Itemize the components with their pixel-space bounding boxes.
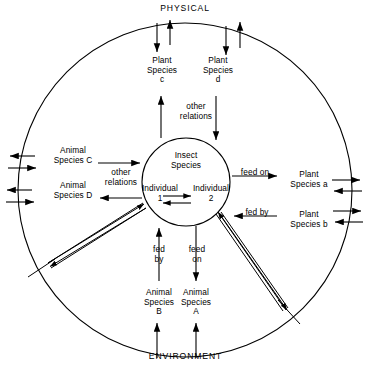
individual-2-label: Individual 2 <box>188 184 234 203</box>
label-top-other-relations: other relations <box>168 102 224 121</box>
environment-title: ENVIRONMENT <box>138 352 233 362</box>
physical-title: PHYSICAL <box>155 4 215 14</box>
ecology-relations-diagram: PHYSICAL ENVIRONMENT Plant Species c Pla… <box>0 0 370 370</box>
label-fed-by-right: fed by <box>236 208 278 218</box>
lower-left-double-channel <box>28 203 146 277</box>
label-feed-on-right: feed on <box>233 168 277 178</box>
individual-1-label: Individual 1 <box>137 184 183 203</box>
label-fed-by-bottom: fed by <box>140 245 178 264</box>
node-plant-species-d: Plant Species d <box>194 56 242 85</box>
label-feed-on-bottom: feed on <box>178 245 216 264</box>
insect-species-heading: Insect Species <box>160 151 212 170</box>
node-animal-species-a: Animal Species A <box>171 288 221 317</box>
node-plant-species-a: Plant Species a <box>283 170 335 189</box>
node-plant-species-c: Plant Species c <box>138 56 186 85</box>
node-animal-species-c: Animal Species C <box>44 146 102 165</box>
node-plant-species-b: Plant Species b <box>283 210 335 229</box>
